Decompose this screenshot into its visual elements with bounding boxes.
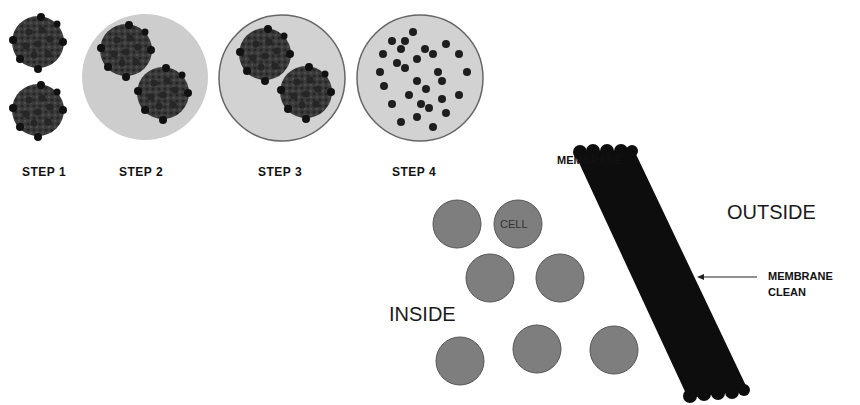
cell-label: CELL xyxy=(500,219,528,230)
inside-label: INSIDE xyxy=(389,304,456,324)
step2-graphic xyxy=(82,14,208,140)
membrane-clean-arrow xyxy=(697,274,757,280)
step3-label: STEP 3 xyxy=(258,166,302,178)
step2-label: STEP 2 xyxy=(119,166,163,178)
step3-graphic xyxy=(219,15,345,141)
step1-clusters xyxy=(9,13,67,141)
step4-label: STEP 4 xyxy=(392,166,436,178)
step4-graphic xyxy=(357,15,483,141)
outside-label: OUTSIDE xyxy=(727,202,816,222)
membrane-clean-label-line2: CLEAN xyxy=(768,287,806,298)
membrane-label: MEMBRANE xyxy=(557,155,622,166)
step1-label: STEP 1 xyxy=(22,166,66,178)
cells xyxy=(433,200,638,385)
membrane-clean-label-line1: MEMBRANE xyxy=(768,271,833,282)
